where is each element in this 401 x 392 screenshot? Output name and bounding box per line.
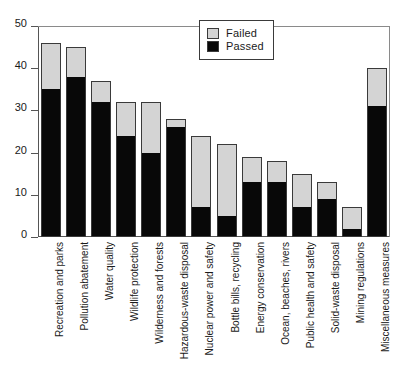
x-axis-label: Miscellaneous measures bbox=[381, 242, 391, 352]
x-axis-label-slot: Energy conservation bbox=[239, 240, 265, 390]
x-axis-label-slot: Wilderness and forests bbox=[138, 240, 164, 390]
bar-column bbox=[166, 119, 186, 237]
bar-segment-failed bbox=[166, 119, 186, 127]
stacked-bar-chart: 50403020100 Failed Passed Recreation and… bbox=[0, 0, 401, 392]
bar-segment-failed bbox=[342, 207, 362, 228]
x-axis-label-slot: Nuclear power and safety bbox=[188, 240, 214, 390]
x-axis-label-slot: Public health and safety bbox=[289, 240, 315, 390]
y-tick-mark bbox=[31, 110, 38, 111]
bar-segment-failed bbox=[66, 47, 86, 77]
legend-label-failed: Failed bbox=[226, 28, 257, 39]
bar-segment-passed bbox=[367, 106, 387, 237]
x-axis-label-slot: Mining regulations bbox=[339, 240, 365, 390]
bar-segment-passed bbox=[66, 77, 86, 237]
x-axis-label-slot: Ocean, beaches, rivers bbox=[264, 240, 290, 390]
bar-segment-failed bbox=[317, 182, 337, 199]
x-axis-label-slot: Recreation and parks bbox=[38, 240, 64, 390]
bar-segment-passed bbox=[217, 216, 237, 237]
x-axis-label-slot: Bottle bills, recycling bbox=[214, 240, 240, 390]
bar-column bbox=[267, 161, 287, 237]
y-tick-label: 10 bbox=[0, 187, 27, 198]
bar-column bbox=[141, 102, 161, 237]
bar-column bbox=[317, 182, 337, 237]
y-tick-label: 30 bbox=[0, 102, 27, 113]
bar-segment-failed bbox=[267, 161, 287, 182]
y-tick-mark bbox=[31, 195, 38, 196]
bar-segment-failed bbox=[217, 144, 237, 216]
x-axis-labels: Recreation and parksPollution abatementW… bbox=[38, 240, 390, 390]
bar-column bbox=[367, 68, 387, 237]
bar-column bbox=[217, 144, 237, 237]
x-axis-label-slot: Solid-waste disposal bbox=[314, 240, 340, 390]
y-tick-mark bbox=[31, 26, 38, 27]
bar-segment-failed bbox=[116, 102, 136, 136]
bar-column bbox=[292, 174, 312, 237]
bar-segment-passed bbox=[141, 153, 161, 237]
x-axis-label-slot: Wildlife protection bbox=[113, 240, 139, 390]
x-axis-label-slot: Miscellaneous measures bbox=[364, 240, 390, 390]
x-axis-label-slot: Water quality bbox=[88, 240, 114, 390]
bar-segment-passed bbox=[317, 199, 337, 237]
bar-segment-failed bbox=[292, 174, 312, 208]
legend-label-passed: Passed bbox=[226, 41, 264, 52]
bar-segment-passed bbox=[116, 136, 136, 237]
x-axis-label-slot: Hazardous-waste disposal bbox=[163, 240, 189, 390]
y-tick-mark bbox=[31, 153, 38, 154]
bar-segment-passed bbox=[166, 127, 186, 237]
bar-segment-failed bbox=[141, 102, 161, 153]
bar-column bbox=[342, 207, 362, 237]
bar-column bbox=[91, 81, 111, 237]
bar-segment-failed bbox=[41, 43, 61, 89]
bar-column bbox=[242, 157, 262, 237]
bar-segment-failed bbox=[91, 81, 111, 102]
chart-legend: Failed Passed bbox=[199, 20, 274, 60]
x-axis-label-slot: Pollution abatement bbox=[63, 240, 89, 390]
y-tick-mark bbox=[31, 237, 38, 238]
bar-segment-passed bbox=[191, 207, 211, 237]
y-tick-label: 50 bbox=[0, 18, 27, 29]
bar-column bbox=[116, 102, 136, 237]
bar-column bbox=[191, 136, 211, 237]
bar-segment-failed bbox=[191, 136, 211, 208]
legend-swatch-failed bbox=[207, 28, 219, 39]
y-tick-label: 40 bbox=[0, 60, 27, 71]
legend-item-failed: Failed bbox=[207, 28, 264, 39]
bar-segment-passed bbox=[292, 207, 312, 237]
bar-segment-passed bbox=[41, 89, 61, 237]
bar-segment-passed bbox=[267, 182, 287, 237]
bar-segment-passed bbox=[342, 229, 362, 237]
legend-swatch-passed bbox=[207, 41, 219, 52]
bar-column bbox=[66, 47, 86, 237]
bar-segment-failed bbox=[242, 157, 262, 182]
y-axis-tick: 0 bbox=[0, 237, 401, 238]
y-tick-mark bbox=[31, 68, 38, 69]
legend-item-passed: Passed bbox=[207, 41, 264, 52]
bar-column bbox=[41, 43, 61, 237]
bar-segment-failed bbox=[367, 68, 387, 106]
bar-segment-passed bbox=[242, 182, 262, 237]
bar-segment-passed bbox=[91, 102, 111, 237]
y-tick-label: 20 bbox=[0, 145, 27, 156]
y-tick-label: 0 bbox=[0, 229, 27, 240]
